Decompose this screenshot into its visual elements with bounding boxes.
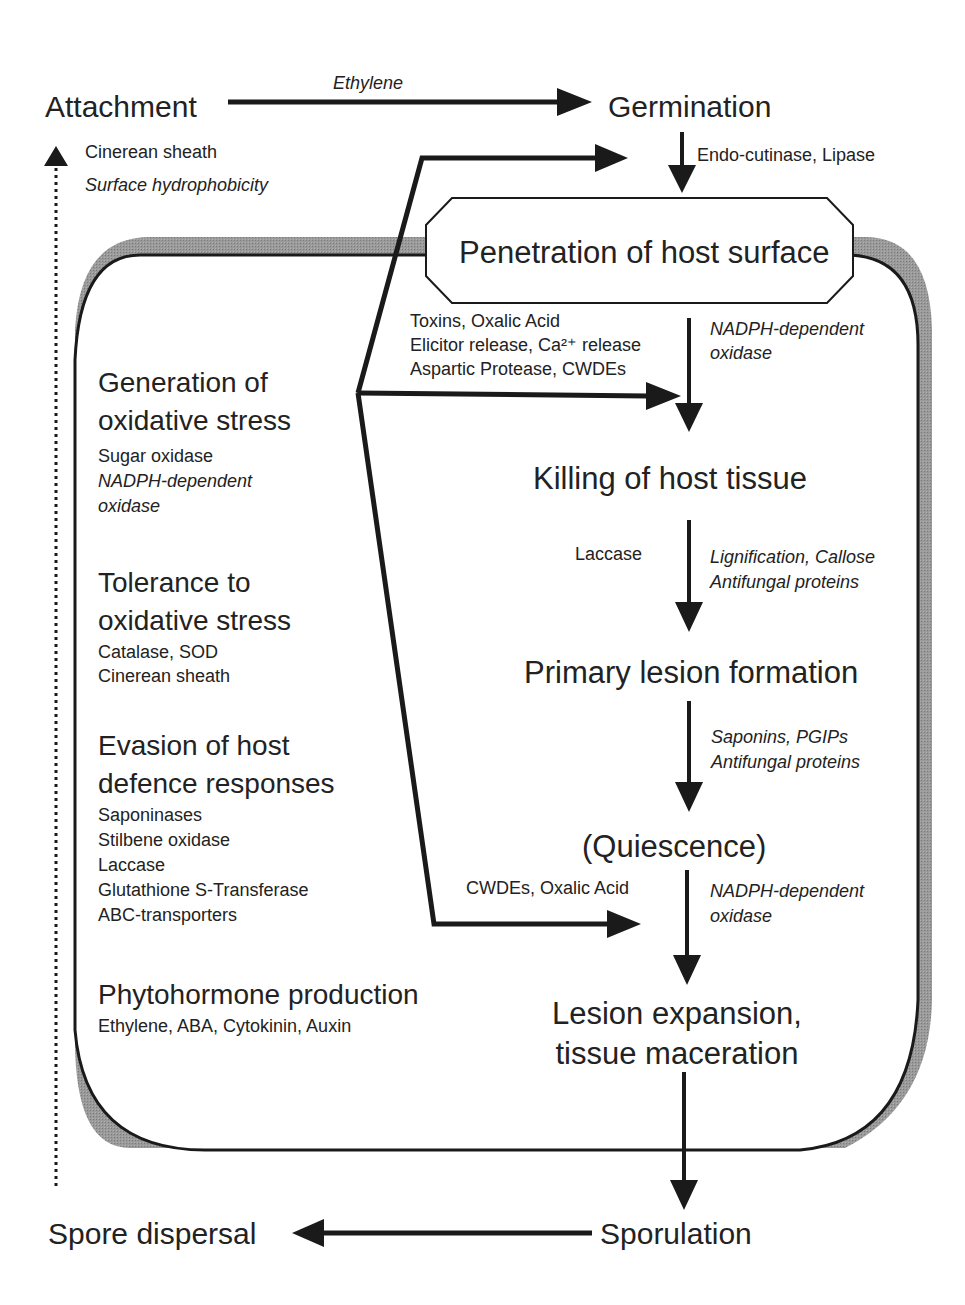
stage-lesion-expansion: Lesion expansion, tissue maceration xyxy=(552,994,802,1075)
arrow-head-left xyxy=(292,1219,324,1247)
attachment-label: Attachment xyxy=(45,92,197,122)
mechanism-items: Catalase, SOD Cinerean sheath xyxy=(98,640,291,689)
ethylene-label: Ethylene xyxy=(333,74,403,92)
mechanism-phytohormone: Phytohormone production Ethylene, ABA, C… xyxy=(98,976,419,1038)
mechanism-heading: Tolerance to oxidative stress xyxy=(98,564,291,640)
stage-quiescence: (Quiescence) xyxy=(582,831,766,862)
mechanism-heading: Generation of oxidative stress xyxy=(98,364,291,440)
quiescence-host-factors: NADPH-dependent oxidase xyxy=(710,879,864,929)
arrow-head-up xyxy=(44,146,68,166)
quiescence-fungal-factors: CWDEs, Oxalic Acid xyxy=(466,879,629,897)
mechanism-heading: Phytohormone production xyxy=(98,976,419,1014)
killing-host-factors: Lignification, Callose Antifungal protei… xyxy=(710,545,875,595)
attachment-factor: Cinerean sheath xyxy=(85,143,217,161)
stage-primary-lesion: Primary lesion formation xyxy=(524,657,858,688)
germination-factor: Endo-cutinase, Lipase xyxy=(697,146,875,164)
attachment-factor: Surface hydrophobicity xyxy=(85,176,268,194)
spore-dispersal-label: Spore dispersal xyxy=(48,1219,256,1249)
stage-penetration: Penetration of host surface xyxy=(459,237,830,268)
stage-killing: Killing of host tissue xyxy=(533,463,807,494)
penetration-fungal-factors: Toxins, Oxalic Acid Elicitor release, Ca… xyxy=(410,310,641,382)
sporulation-label: Sporulation xyxy=(600,1219,752,1249)
mechanism-oxidative-tolerance: Tolerance to oxidative stress Catalase, … xyxy=(98,564,291,688)
mechanism-oxidative-generation: Generation of oxidative stress Sugar oxi… xyxy=(98,364,291,519)
arrow-head-right xyxy=(557,88,592,116)
mechanism-heading: Evasion of host defence responses xyxy=(98,727,335,803)
mechanism-items: Sugar oxidase NADPH-dependent oxidase xyxy=(98,444,291,520)
killing-fungal-factors: Laccase xyxy=(575,545,642,563)
mechanism-items: Ethylene, ABA, Cytokinin, Auxin xyxy=(98,1014,419,1038)
germination-label: Germination xyxy=(608,92,771,122)
infection-cycle-diagram: Attachment Ethylene Germination Cinerean… xyxy=(0,0,965,1305)
primary-host-factors: Saponins, PGIPs Antifungal proteins xyxy=(711,725,860,775)
mechanism-items: Saponinases Stilbene oxidase Laccase Glu… xyxy=(98,803,335,929)
mechanism-host-evasion: Evasion of host defence responses Saponi… xyxy=(98,727,335,929)
penetration-host-factors: NADPH-dependent oxidase xyxy=(710,318,864,366)
